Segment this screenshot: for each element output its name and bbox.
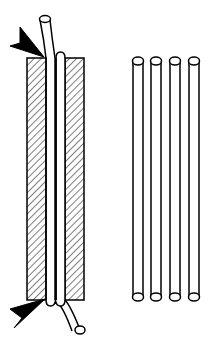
bottom-cut-arrow-icon <box>10 299 45 328</box>
top-cut-arrow-icon <box>10 27 44 57</box>
clamp-assembly <box>10 16 85 335</box>
loose-tube-1 <box>133 57 144 301</box>
loose-tube-2 <box>151 57 162 301</box>
clamped-tube-bottom-ends <box>46 300 65 306</box>
left-clamp-block <box>27 58 46 300</box>
right-clamp-block <box>65 58 84 300</box>
loose-tubes <box>133 57 200 301</box>
loose-tube-3 <box>170 57 181 301</box>
loose-tube-4 <box>189 57 200 301</box>
diagram-canvas <box>0 0 212 341</box>
